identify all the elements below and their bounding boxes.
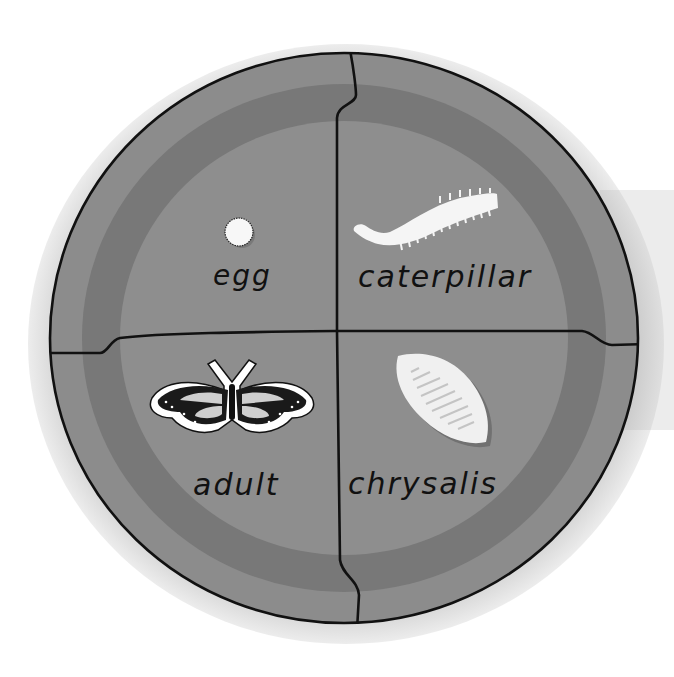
stage-label-adult: adult (193, 470, 280, 500)
stage-label-caterpillar: caterpillar (358, 262, 532, 292)
inner-area (120, 121, 568, 555)
life-cycle-wheel (0, 0, 674, 677)
stage-label-egg: egg (213, 262, 272, 290)
stage-label-chrysalis: chrysalis (348, 469, 498, 499)
life-cycle-diagram: egg caterpillar chrysalis adult (0, 0, 674, 677)
